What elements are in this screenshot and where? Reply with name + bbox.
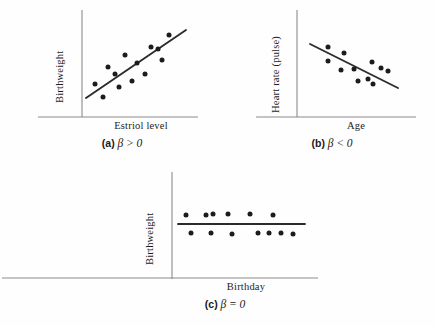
panel-b-y-axis-label: Heart rate (pulse): [270, 36, 281, 113]
panel-c-caption-value: 0: [239, 298, 245, 310]
panel-c-caption-operator: =: [229, 298, 237, 310]
panel-a-x-axis-label: Estriol level: [82, 120, 200, 131]
regression-slope-figure: Estriol level Birthweight (a) β > 0: [0, 0, 435, 326]
panel-b-fit-line: [310, 44, 398, 88]
panel-c: Birthday Birthweight: [120, 170, 320, 282]
panel-a: Estriol level Birthweight: [30, 8, 200, 120]
panel-b-caption-tag: (b): [312, 137, 325, 149]
panel-b-caption-operator: <: [336, 137, 344, 149]
panel-b-x-axis-label: Age: [297, 120, 415, 131]
panel-b-caption: (b) β < 0: [272, 137, 392, 149]
panel-c-caption: (c) β = 0: [165, 298, 285, 310]
panel-a-caption-operator: >: [126, 137, 134, 149]
panel-a-y-axis-label: Birthweight: [54, 51, 65, 103]
panel-c-y-axis-label: Birthweight: [144, 213, 155, 265]
panel-a-caption-value: 0: [136, 137, 142, 149]
panel-c-x-axis-label: Birthday: [172, 281, 320, 292]
panel-b-caption-value: 0: [347, 137, 353, 149]
panel-a-caption: (a) β > 0: [62, 137, 182, 149]
panel-b: Age Heart rate (pulse): [248, 8, 418, 120]
panel-c-caption-tag: (c): [205, 298, 218, 310]
panel-a-caption-tag: (a): [102, 137, 115, 149]
